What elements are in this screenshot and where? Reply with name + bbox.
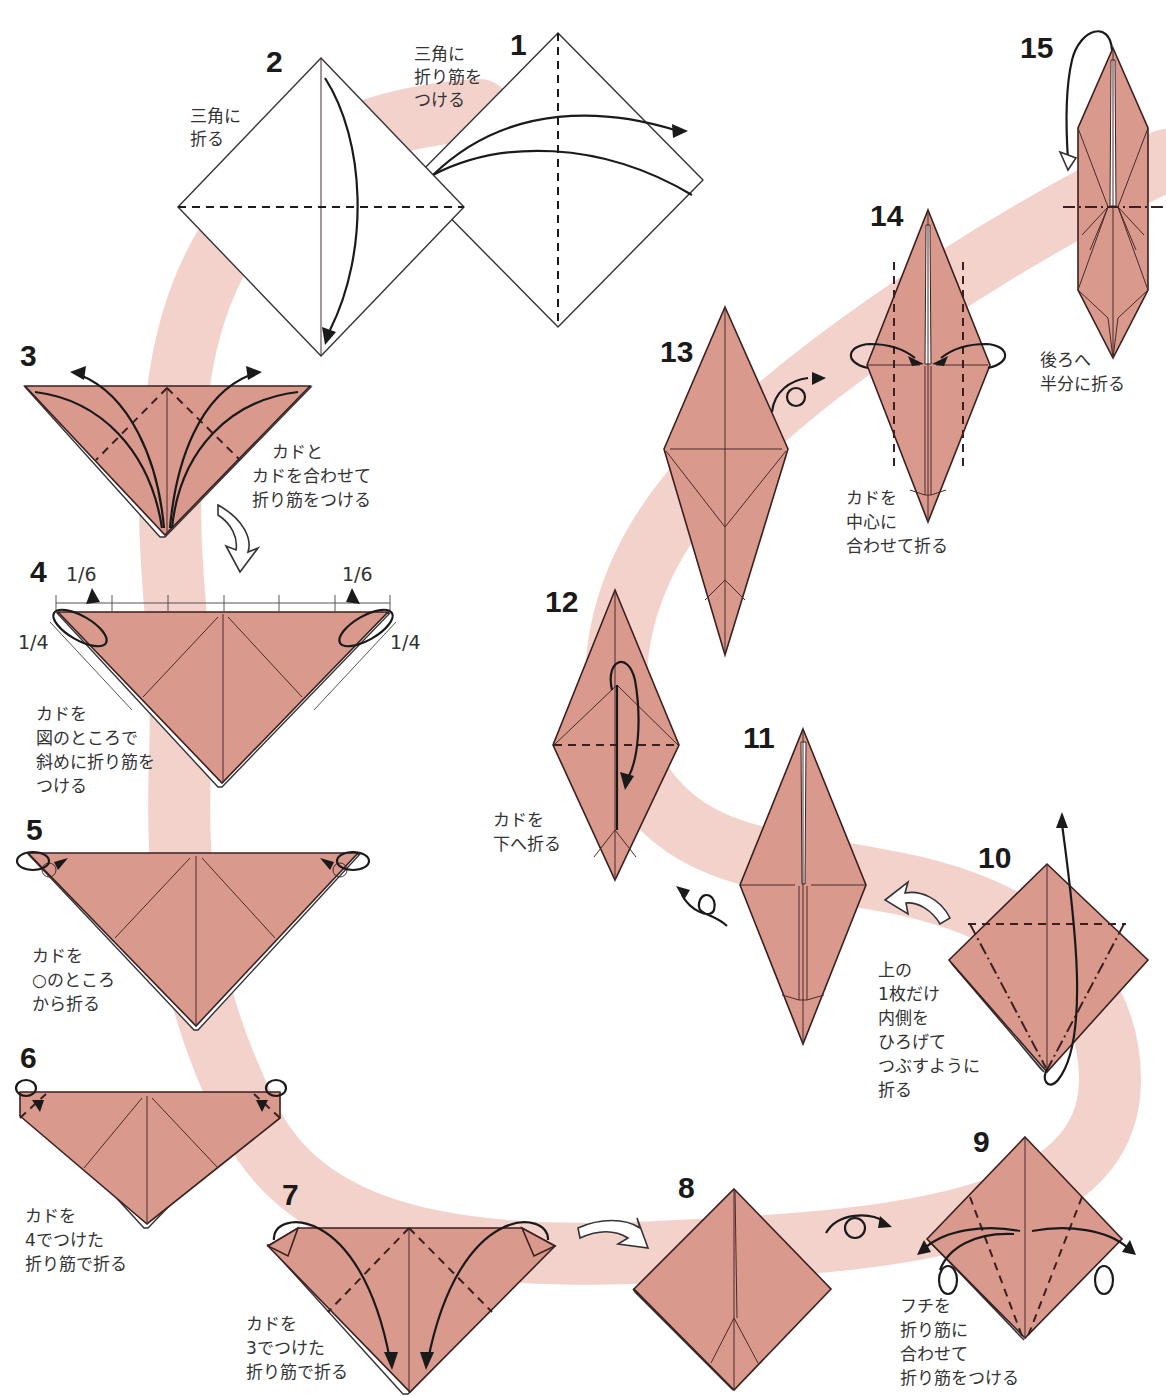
step-5-caption-line-1: カドを [32, 946, 83, 966]
step-4: 4 1/6 1/6 1/4 1/4 カドを 図のところで 斜めに折り筋を つける [18, 555, 421, 796]
step-2-caption-line-2: 折る [190, 129, 224, 149]
step-9-fold-loop-left [939, 1266, 957, 1294]
step-7-number: 7 [282, 1178, 299, 1211]
step-10-caption-line-6: 折る [878, 1080, 912, 1100]
step-11: 11 [676, 721, 866, 1044]
step-3-caption-line-3: 折り筋をつける [252, 490, 371, 510]
step-12-caption-line-2: 下へ折る [493, 834, 561, 854]
step-10-caption-line-5: つぶすように [878, 1056, 980, 1076]
step-14-number: 14 [870, 199, 904, 232]
step-4-caption-line-4: つける [36, 776, 87, 796]
step-5-caption-line-2: ○のところ [32, 970, 115, 990]
step-14-caption-line-3: 合わせて折る [846, 536, 948, 556]
step-9-fold-loop-right [1095, 1266, 1113, 1294]
step-10-caption-line-2: 1枚だけ [878, 984, 940, 1004]
origami-diagram: 1 三角に 折り筋を つける 2 三角に 折る 3 カドと カドを合わせて 折り… [0, 0, 1166, 1396]
step-2-number: 2 [266, 45, 283, 78]
step-12-number: 12 [545, 585, 578, 618]
step-5-number: 5 [26, 813, 43, 846]
step-7-caption-line-2: 3でつけた [246, 1338, 325, 1358]
step-15-caption-line-2: 半分に折る [1040, 374, 1125, 394]
step-4-fraction-side-left: 1/4 [18, 631, 49, 653]
step-7-caption-line-1: カドを [246, 1314, 297, 1334]
step-11-number: 11 [743, 721, 775, 754]
step-4-number: 4 [30, 555, 47, 588]
step-10-number: 10 [978, 841, 1011, 874]
step-4-fraction-side-right: 1/4 [390, 631, 421, 653]
step-12-caption-line-1: カドを [493, 810, 544, 830]
step-15-number: 15 [1020, 31, 1053, 64]
step-4-arrowhead-left-icon [86, 588, 100, 604]
step-5-caption-line-3: から折る [32, 994, 100, 1014]
step-10-arrowhead-icon [1056, 812, 1068, 828]
step-4-fraction-top-left: 1/6 [66, 563, 97, 585]
step-3-arrowhead-left-icon [70, 366, 86, 380]
step-3-arrowhead-right-icon [246, 366, 262, 380]
step-8-number: 8 [678, 1171, 695, 1204]
step-4-fraction-top-right: 1/6 [342, 563, 373, 585]
step-3-number: 3 [20, 339, 37, 372]
step-1: 1 三角に 折り筋を つける [413, 28, 703, 327]
step-6-number: 6 [20, 1041, 37, 1074]
step-6-caption-line-1: カドを [25, 1206, 76, 1226]
step-13-number: 13 [660, 335, 693, 368]
step-8: 8 [633, 1171, 892, 1390]
step-3-caption-line-1: カドと [272, 442, 323, 462]
step-4-caption-line-1: カドを [36, 704, 87, 724]
step-2-caption-line-1: 三角に [190, 106, 241, 126]
step-10-caption-line-3: 内側を [878, 1008, 929, 1028]
step-1-caption-line-3: つける [414, 90, 465, 110]
step-9-caption-line-3: 合わせて [900, 1344, 968, 1364]
step-9-number: 9 [973, 1125, 990, 1158]
step-15-arrowhead-icon [1060, 152, 1076, 170]
turn-over-icon [676, 886, 727, 926]
step-3-caption-line-2: カドを合わせて [252, 466, 371, 486]
step-4-caption-line-2: 図のところで [36, 728, 138, 748]
step-10-caption-line-4: ひろげて [878, 1032, 946, 1052]
step-9-caption-line-2: 折り筋に [900, 1320, 968, 1340]
step-9-arrowhead-right-icon [1122, 1240, 1136, 1255]
step-6-caption-line-3: 折り筋で折る [25, 1254, 127, 1274]
step-1-arrowhead-icon [672, 124, 688, 138]
step-1-caption-line-1: 三角に [414, 44, 465, 64]
next-step-arrow-3-to-4-icon [218, 505, 258, 572]
step-9-caption-line-1: フチを [900, 1296, 951, 1316]
step-14-caption-line-1: カドを [846, 488, 897, 508]
step-14-caption-line-2: 中心に [846, 512, 897, 532]
step-9-caption-line-4: 折り筋をつける [900, 1368, 1019, 1388]
step-1-caption-line-2: 折り筋を [414, 67, 482, 87]
step-10-caption-line-1: 上の [878, 960, 912, 980]
step-4-caption-line-3: 斜めに折り筋を [36, 752, 155, 772]
step-4-arrowhead-right-icon [346, 588, 360, 604]
step-1-number: 1 [510, 28, 527, 61]
step-7-caption-line-3: 折り筋で折る [246, 1362, 348, 1382]
step-6-caption-line-2: 4でつけた [25, 1230, 104, 1250]
step-15-caption-line-1: 後ろへ [1040, 350, 1091, 370]
